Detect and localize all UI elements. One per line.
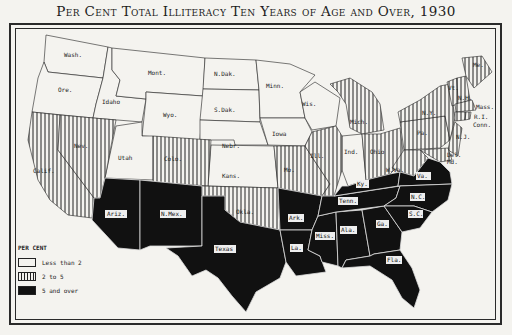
legend-heading: PER CENT (18, 244, 82, 251)
label-wis: Wis. (302, 100, 316, 107)
label-ore: Ore. (58, 86, 72, 93)
label-texas: Texas (215, 245, 233, 252)
legend-label-low: Less than 2 (42, 259, 82, 266)
label-nmex: N.Mex. (161, 210, 183, 217)
legend-item-low: Less than 2 (18, 255, 82, 269)
label-sdak: S.Dak. (214, 106, 236, 113)
label-idaho: Idaho (102, 98, 120, 105)
swatch-black (18, 286, 36, 295)
label-kans: Kans. (222, 172, 240, 179)
label-ky: Ky. (357, 180, 368, 188)
label-ga: Ga. (377, 220, 388, 227)
label-utah: Utah (118, 154, 133, 161)
label-ri: R.I. (474, 113, 488, 120)
label-sc: S.C. (409, 210, 423, 217)
swatch-hatch (18, 272, 36, 281)
label-nc: N.C. (411, 193, 425, 200)
legend-item-high: 5 and over (18, 283, 82, 297)
label-okla: Okla. (236, 208, 254, 215)
label-ala: Ala. (341, 226, 355, 233)
label-miss: Miss. (316, 232, 334, 239)
label-wash: Wash. (64, 51, 82, 58)
label-ny: N.Y. (422, 109, 436, 116)
label-me: Me. (473, 61, 484, 68)
state-fla (342, 250, 420, 308)
label-mich: Mich. (350, 118, 368, 125)
label-pa: Pa. (417, 129, 428, 136)
label-mo: Mo. (284, 166, 295, 173)
label-conn: Conn. (473, 121, 491, 128)
state-kans (208, 145, 278, 188)
label-ill: Ill. (310, 152, 324, 159)
label-nebr: Nebr. (222, 142, 240, 149)
label-nj: N.J. (456, 133, 470, 140)
legend: PER CENT Less than 2 2 to 5 5 and over (18, 244, 82, 297)
legend-item-mid: 2 to 5 (18, 269, 82, 283)
label-va: Va. (417, 172, 428, 179)
state-conn (455, 112, 466, 121)
label-ind: Ind. (344, 148, 358, 155)
label-iowa: Iowa (272, 130, 287, 137)
label-nev: Nev. (74, 142, 88, 149)
label-fla: Fla. (387, 256, 401, 263)
label-wva: W.Va. (386, 166, 404, 173)
label-vt: Vt. (448, 84, 459, 91)
label-la: La. (291, 244, 302, 251)
label-tenn: Tenn. (339, 197, 357, 204)
label-ndak: N.Dak. (214, 70, 236, 77)
legend-label-high: 5 and over (42, 287, 78, 294)
label-nh: N.H. (458, 94, 472, 101)
label-md: Md. (447, 158, 458, 165)
legend-label-mid: 2 to 5 (42, 273, 64, 280)
label-wyo: Wyo. (163, 111, 177, 119)
label-calif: Calif. (33, 167, 55, 174)
swatch-white (18, 258, 36, 267)
label-mass: Mass. (476, 103, 494, 110)
label-colo: Colo. (164, 155, 182, 162)
label-ark: Ark. (289, 214, 303, 221)
label-minn: Minn. (266, 82, 284, 89)
label-mont: Mont. (148, 69, 166, 76)
label-ohio: Ohio (370, 148, 385, 155)
label-del: Del. (447, 151, 461, 158)
state-ri (465, 112, 471, 120)
label-ariz: Ariz. (107, 210, 125, 217)
